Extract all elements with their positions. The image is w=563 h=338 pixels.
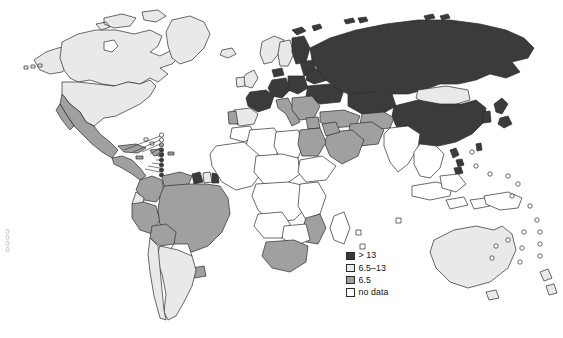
country-suriname	[203, 172, 212, 183]
legend-swatch-high	[346, 252, 355, 261]
legend-label-nodata: no data	[359, 288, 389, 297]
caribbean-callout-markers	[159, 133, 163, 177]
legend-swatch-low	[346, 276, 355, 285]
country-taiwan	[476, 143, 482, 151]
country-puerto-rico	[168, 152, 174, 155]
legend-item-high[interactable]: > 13	[346, 250, 418, 262]
country-korea	[482, 111, 491, 123]
country-jamaica	[136, 156, 143, 159]
legend-label-mid: 6.5–13	[359, 264, 387, 273]
legend-item-mid[interactable]: 6.5–13	[346, 262, 418, 274]
world-map-figure	[0, 0, 563, 338]
legend-swatch-mid	[346, 264, 355, 273]
legend-swatch-nodata	[346, 288, 355, 297]
legend-item-low[interactable]: 6.5	[346, 274, 418, 286]
legend-label-low: 6.5	[359, 276, 372, 285]
world-map-svg	[0, 0, 563, 338]
country-greece	[306, 117, 320, 129]
legend-label-high: > 13	[359, 251, 377, 260]
map-legend: > 13 6.5–13 6.5 no data	[346, 250, 418, 299]
country-ireland	[236, 77, 245, 87]
country-portugal	[228, 111, 238, 124]
country-denmark	[272, 68, 284, 77]
legend-item-nodata[interactable]: no data	[346, 287, 418, 299]
edge-artifact-text: 0000	[4, 228, 11, 252]
